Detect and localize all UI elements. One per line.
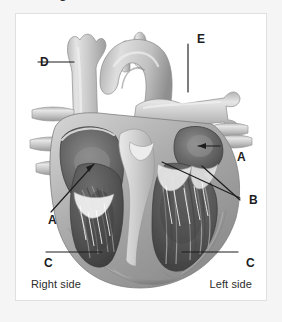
label-cue-a-left: A — [48, 214, 57, 226]
heart-body-group — [50, 113, 240, 288]
figure-panel: D E A A B C C Right side Left side — [15, 13, 267, 301]
label-cue-c-right: C — [246, 257, 255, 269]
label-cue-d: D — [40, 56, 49, 68]
label-cue-a-right: A — [237, 151, 246, 163]
label-cue-c-left: C — [44, 257, 53, 269]
label-cue-e: E — [197, 33, 205, 45]
label-cue-b: B — [249, 194, 258, 206]
clipped-caption-fragment: g — [59, 0, 69, 3]
heart-cross-section-diagram — [16, 14, 266, 300]
orientation-label-left: Left side — [210, 278, 252, 290]
orientation-label-right: Right side — [31, 278, 81, 290]
